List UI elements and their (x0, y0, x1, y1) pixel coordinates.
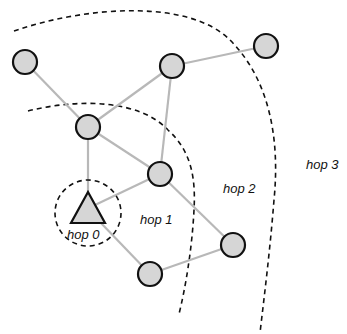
hop-3-label: hop 3 (306, 157, 339, 172)
node-g[interactable] (138, 262, 162, 286)
nodes (13, 34, 278, 286)
node-d[interactable] (76, 115, 100, 139)
edge-b-c (172, 46, 266, 66)
node-f[interactable] (221, 233, 245, 257)
hop-2-label: hop 2 (223, 181, 256, 196)
hop-2-boundary (28, 103, 194, 314)
node-a[interactable] (13, 50, 37, 74)
hop-1-label: hop 1 (140, 212, 173, 227)
edge-a-d (25, 62, 88, 127)
source-node-triangle[interactable] (71, 192, 105, 223)
hop-diagram: hop 0 hop 1 hop 2 hop 3 (0, 0, 347, 334)
node-c[interactable] (254, 34, 278, 58)
edge-g-f (150, 245, 233, 274)
hop-0-label: hop 0 (67, 227, 100, 242)
node-e[interactable] (148, 162, 172, 186)
node-b[interactable] (160, 54, 184, 78)
edge-b-e (160, 66, 172, 174)
edge-d-b (88, 66, 172, 127)
